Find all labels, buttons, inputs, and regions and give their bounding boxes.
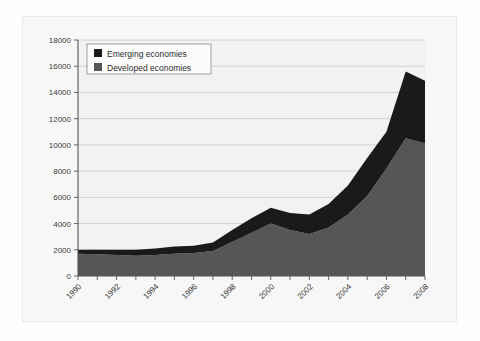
- y-axis-tick-label: 2000: [53, 246, 71, 255]
- legend-swatch: [94, 63, 102, 71]
- y-axis-tick-label: 4000: [53, 220, 71, 229]
- x-axis-tick-label: 2008: [411, 282, 430, 301]
- chart-page: 0200040006000800010000120001400016000180…: [0, 0, 480, 341]
- x-axis-tick-label: 1990: [64, 282, 83, 301]
- y-axis-tick-label: 8000: [53, 167, 71, 176]
- x-axis-tick-label: 1998: [219, 282, 238, 301]
- x-axis-tick-label: 2006: [373, 282, 392, 301]
- y-axis-tick-label: 6000: [53, 193, 71, 202]
- x-axis-tick-label: 2000: [257, 282, 276, 301]
- y-axis-tick-label: 0: [67, 272, 72, 281]
- legend-swatch: [94, 49, 102, 57]
- chart-card: 0200040006000800010000120001400016000180…: [22, 16, 457, 322]
- legend-label: Developed economies: [107, 63, 191, 73]
- x-axis-tick-label: 1996: [180, 282, 199, 301]
- y-axis-tick-label: 10000: [49, 141, 72, 150]
- x-axis-tick-label: 2004: [334, 282, 353, 301]
- x-axis-tick-label: 1994: [142, 282, 161, 301]
- y-axis-tick-label: 14000: [49, 88, 72, 97]
- y-axis-tick-label: 12000: [49, 115, 72, 124]
- x-axis: 1990199219941996199820002002200420062008: [64, 276, 430, 301]
- stacked-area-chart: 0200040006000800010000120001400016000180…: [23, 17, 458, 323]
- y-axis-tick-label: 16000: [49, 62, 72, 71]
- y-axis-tick-label: 18000: [49, 36, 72, 45]
- legend-label: Emerging economies: [107, 49, 187, 59]
- x-axis-tick-label: 1992: [103, 282, 122, 301]
- x-axis-tick-label: 2002: [296, 282, 315, 301]
- chart-legend: Emerging economiesDeveloped economies: [87, 44, 211, 74]
